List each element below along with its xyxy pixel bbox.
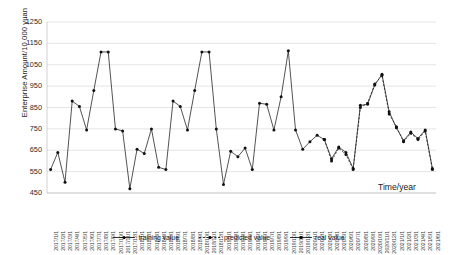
chart-legend: training valuepredicted valuereal value xyxy=(0,234,458,241)
series-real-value xyxy=(323,73,434,170)
legend-item: training value xyxy=(113,234,178,241)
legend-label: training value xyxy=(138,234,178,241)
legend-solid-marker-line xyxy=(113,234,135,241)
legend-solid-marker-line xyxy=(290,234,312,241)
legend-label: real value xyxy=(315,234,344,241)
series-training-value xyxy=(49,49,326,190)
plot-area xyxy=(0,0,458,255)
legend-dashed-marker-line xyxy=(199,234,221,241)
series-predicted-value xyxy=(323,74,434,171)
chart-container: Enterprise Amount/10 000 yuan 1250115010… xyxy=(0,0,458,255)
legend-label: predicted value xyxy=(224,234,270,241)
legend-item: predicted value xyxy=(199,234,270,241)
gridlines xyxy=(47,22,436,193)
legend-item: real value xyxy=(290,234,344,241)
x-axis-title: Time/year xyxy=(378,182,416,192)
